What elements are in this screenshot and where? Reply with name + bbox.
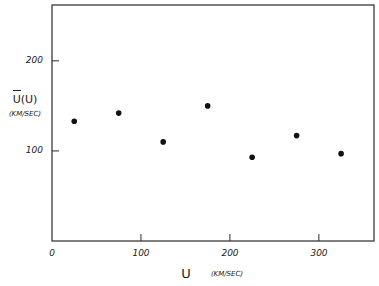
scatter-chart: 0 100 200 300 200 100 U (KM/SEC) U(U) (K… [0, 0, 379, 286]
x-tick-label-200: 200 [221, 248, 238, 258]
data-point [338, 151, 344, 157]
x-tick-label-300: 300 [310, 248, 327, 258]
data-point [160, 139, 166, 145]
data-points [71, 103, 343, 160]
plot-frame [52, 5, 374, 241]
x-axis-units: (KM/SEC) [211, 270, 243, 278]
y-tick-label-100: 100 [26, 145, 43, 155]
plot-border [52, 5, 374, 241]
x-axis-title: U [181, 266, 191, 281]
data-point [116, 110, 122, 116]
x-tick-label-100: 100 [132, 248, 149, 258]
axis-ticks [52, 61, 319, 241]
data-point [249, 154, 255, 160]
data-point [294, 133, 300, 139]
data-point [71, 118, 77, 124]
y-tick-label-200: 200 [26, 55, 43, 65]
data-point [205, 103, 211, 109]
y-axis-units: (KM/SEC) [9, 110, 41, 118]
x-tick-label-0: 0 [49, 248, 55, 258]
y-axis-title: U(U) [13, 93, 38, 106]
